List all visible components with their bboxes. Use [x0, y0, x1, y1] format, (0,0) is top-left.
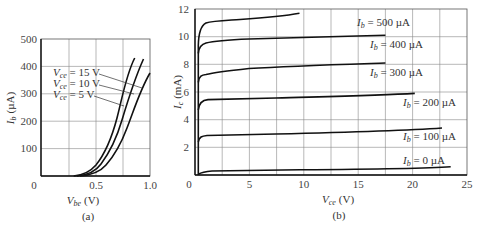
panel-a-y-label: Ib(µA) — [4, 92, 18, 126]
svg-text:15: 15 — [353, 178, 365, 190]
panel-b-x-label: Vce(V) — [322, 193, 354, 207]
svg-text:400: 400 — [21, 60, 38, 72]
svg-text:6: 6 — [184, 86, 190, 98]
curve-ib-400ua — [198, 35, 385, 53]
panel-b-caption: (b) — [333, 209, 346, 222]
panel-a-y-ticks: 100 200 300 400 500 — [21, 33, 38, 154]
panel-b-y-label: Ic(mA) — [171, 75, 185, 110]
svg-text:20: 20 — [407, 178, 419, 190]
svg-text:0: 0 — [186, 178, 192, 190]
label-ib-500ua: Ib = 500 µA — [356, 16, 410, 30]
label-ib-200ua: Ib = 200 µA — [402, 96, 456, 110]
label-ib-300ua: Ib = 300 µA — [369, 66, 423, 80]
panel-a-x-label: Vbe(V) — [67, 194, 100, 208]
svg-text:8: 8 — [184, 58, 190, 70]
panel-a-input-characteristics: Vce = 15 V Vce = 10 V Vce = 5 V 100 200 … — [4, 33, 157, 223]
svg-text:500: 500 — [21, 33, 38, 45]
label-vce-5v: Vce = 5 V — [53, 88, 95, 102]
label-ib-100ua: Ib = 100 µA — [402, 130, 456, 144]
svg-text:25: 25 — [462, 178, 474, 190]
svg-text:0.5: 0.5 — [89, 179, 103, 191]
curve-ib-300ua — [198, 63, 385, 82]
label-ib-400ua: Ib = 400 µA — [369, 38, 423, 52]
svg-text:2: 2 — [184, 141, 190, 153]
curve-ib-200ua — [198, 93, 414, 110]
panel-a-caption: (a) — [82, 210, 95, 223]
panel-a-x-ticks: 0 0.5 1.0 — [31, 179, 157, 191]
svg-text:10: 10 — [178, 30, 190, 42]
svg-text:4: 4 — [184, 113, 190, 125]
svg-text:5: 5 — [247, 178, 253, 190]
svg-text:10: 10 — [298, 178, 310, 190]
panel-b-x-ticks: 0 5 10 15 20 25 — [186, 178, 473, 190]
svg-text:1.0: 1.0 — [143, 179, 157, 191]
svg-text:100: 100 — [21, 142, 38, 154]
svg-text:300: 300 — [21, 87, 38, 99]
svg-text:0: 0 — [31, 179, 37, 191]
svg-text:12: 12 — [178, 3, 189, 15]
figure-svg: Vce = 15 V Vce = 10 V Vce = 5 V 100 200 … — [0, 0, 479, 227]
svg-text:200: 200 — [21, 115, 38, 127]
panel-b-grid — [195, 9, 467, 175]
panel-b-output-characteristics: Ib = 500 µA Ib = 400 µA Ib = 300 µA Ib =… — [171, 3, 473, 222]
label-ib-0ua: Ib = 0 µA — [402, 154, 445, 168]
figure: Vce = 15 V Vce = 10 V Vce = 5 V 100 200 … — [0, 0, 479, 227]
